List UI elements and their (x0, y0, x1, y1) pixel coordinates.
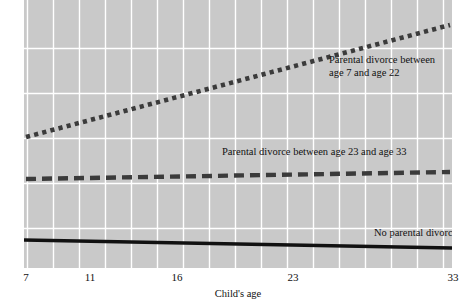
x-tick-label-4: 33 (448, 271, 459, 283)
x-tick-label-3: 23 (288, 271, 299, 283)
annotation-line-1: Parental divorce between (329, 54, 435, 67)
x-tick-label-2: 16 (172, 271, 183, 283)
annotation-no-parental-divorce: No parental divorce (374, 227, 452, 240)
annotation-line-2: age 7 and age 22 (329, 67, 435, 80)
series-line-divorce-age-23-33 (26, 172, 450, 179)
series-line-no-divorce (24, 240, 452, 248)
series-line-divorce-age-7-22 (26, 25, 450, 137)
chart-figure: Measures of emotional problems (0, 0, 466, 308)
annotation-divorce-age-7-22: Parental divorce between age 7 and age 2… (329, 54, 435, 79)
x-axis-title: Child's age (24, 288, 452, 299)
x-tick-label-0: 7 (23, 271, 29, 283)
plot-area: Parental divorce between age 7 and age 2… (24, 0, 452, 268)
x-tick-label-1: 11 (85, 271, 96, 283)
annotation-divorce-age-23-33: Parental divorce between age 23 and age … (222, 146, 407, 159)
